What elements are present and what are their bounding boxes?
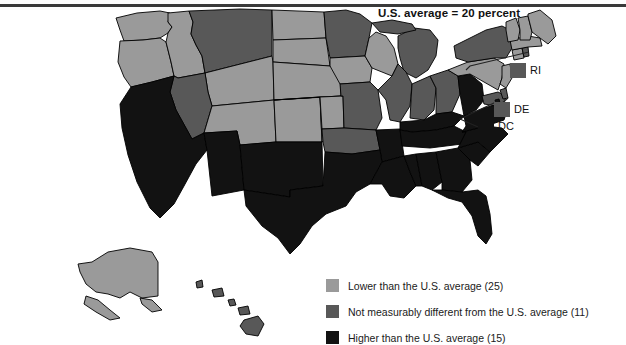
state-OK: [322, 128, 380, 154]
state-AZ: [204, 131, 244, 196]
callout-label-dc: DC: [498, 120, 514, 132]
callout-label-ri: RI: [530, 64, 541, 76]
state-NY: [454, 26, 514, 62]
legend-item-higher: Higher than the U.S. average (15): [326, 327, 626, 345]
state-MI-up: [372, 20, 416, 34]
legend-swatch-not-different: [326, 305, 339, 318]
legend-swatch-higher: [326, 331, 339, 344]
legend-label-lower: Lower than the U.S. average (25): [348, 280, 503, 292]
state-HI: [196, 280, 264, 336]
legend-swatch-lower: [326, 279, 339, 292]
state-MO: [340, 82, 382, 130]
callout-swatch-dc: [478, 119, 494, 134]
state-CO: [274, 97, 322, 142]
callout-label-de: DE: [514, 103, 529, 115]
legend-label-not-different: Not measurably different from the U.S. a…: [348, 306, 589, 318]
state-FL: [432, 190, 492, 244]
state-AK: [78, 248, 162, 320]
state-WA: [116, 11, 172, 41]
state-IN: [410, 76, 436, 120]
state-SD: [273, 38, 330, 66]
state-MN: [324, 10, 372, 58]
callout-swatch-ri: [510, 63, 526, 78]
legend: Lower than the U.S. average (25) Not mea…: [326, 275, 626, 345]
legend-label-higher: Higher than the U.S. average (15): [348, 332, 506, 344]
state-VT: [506, 18, 520, 42]
legend-item-lower: Lower than the U.S. average (25): [326, 275, 626, 296]
callout-swatch-de: [494, 102, 510, 117]
map-figure: U.S. average = 20 percent: [0, 0, 626, 345]
legend-item-not-different: Not measurably different from the U.S. a…: [326, 301, 626, 322]
state-KS2: [320, 96, 344, 129]
state-ND: [272, 10, 326, 40]
